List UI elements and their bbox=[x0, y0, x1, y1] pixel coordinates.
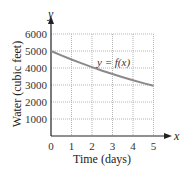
x-axis-symbol: x bbox=[173, 129, 180, 143]
x-tick-label: 2 bbox=[89, 140, 95, 152]
x-tick-label: 0 bbox=[48, 140, 54, 152]
x-tick-label: 5 bbox=[151, 140, 157, 152]
grid-lines bbox=[51, 34, 154, 136]
tick-labels: 100020003000400050006000012345 bbox=[25, 28, 157, 152]
y-tick-label: 6000 bbox=[25, 28, 48, 40]
x-tick-label: 4 bbox=[130, 140, 136, 152]
y-tick-label: 2000 bbox=[25, 96, 48, 108]
curve-label: y = f(x) bbox=[96, 56, 130, 69]
y-axis-label: Water (cubic feet) bbox=[10, 41, 24, 127]
y-tick-label: 4000 bbox=[25, 62, 48, 74]
y-tick-label: 1000 bbox=[25, 113, 48, 125]
x-axis-arrow-icon bbox=[164, 133, 172, 139]
chart: 100020003000400050006000012345 y = f(x) … bbox=[0, 0, 196, 173]
y-tick-label: 3000 bbox=[25, 79, 48, 91]
x-tick-label: 1 bbox=[69, 140, 75, 152]
x-tick-label: 3 bbox=[110, 140, 116, 152]
x-axis-label: Time (days) bbox=[73, 152, 131, 166]
y-tick-label: 5000 bbox=[25, 45, 48, 57]
y-axis-symbol: y bbox=[47, 7, 54, 21]
